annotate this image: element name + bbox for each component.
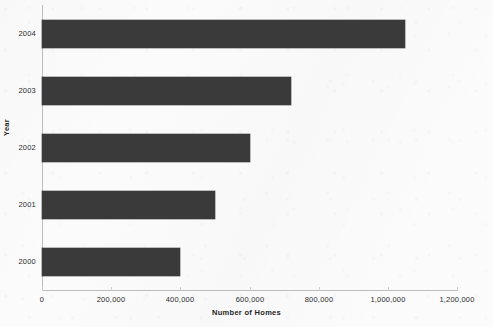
x-tick-mark-4 xyxy=(319,287,320,291)
x-tick-label-3: 600,000 xyxy=(236,295,265,304)
x-tick-label-6: 1,200,000 xyxy=(439,295,474,304)
bar-2001 xyxy=(42,191,215,219)
bar-2000 xyxy=(42,248,180,276)
y-tick-label-2002: 2002 xyxy=(2,143,36,152)
x-tick-mark-1 xyxy=(111,287,112,291)
x-axis-title: Number of Homes xyxy=(0,308,493,317)
y-tick-label-2003: 2003 xyxy=(2,86,36,95)
x-tick-label-2: 400,000 xyxy=(166,295,195,304)
bar-chart: Year Number of Homes 2000200120022003200… xyxy=(0,0,493,327)
y-tick-label-2001: 2001 xyxy=(2,200,36,209)
y-tick-label-2004: 2004 xyxy=(2,29,36,38)
x-tick-label-5: 1,000,000 xyxy=(370,295,405,304)
x-tick-mark-0 xyxy=(42,287,43,291)
x-tick-mark-5 xyxy=(388,287,389,291)
x-tick-mark-2 xyxy=(180,287,181,291)
bar-2004 xyxy=(42,20,405,48)
bar-2002 xyxy=(42,134,250,162)
x-tick-label-1: 200,000 xyxy=(97,295,126,304)
x-tick-mark-3 xyxy=(250,287,251,291)
x-tick-label-0: 0 xyxy=(40,295,44,304)
x-tick-label-4: 800,000 xyxy=(305,295,334,304)
x-tick-mark-6 xyxy=(457,287,458,291)
y-tick-label-2000: 2000 xyxy=(2,257,36,266)
bar-2003 xyxy=(42,77,291,105)
y-axis-title: Year xyxy=(2,119,11,136)
